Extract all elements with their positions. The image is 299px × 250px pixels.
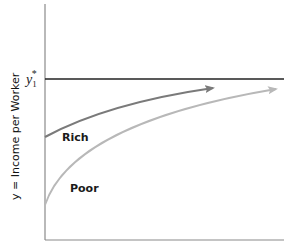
convergence-chart: y = Income per Worker y1* Rich Poor (0, 0, 299, 250)
rich-label: Rich (62, 131, 89, 144)
y-tick-label: y1* (24, 68, 37, 89)
y-axis-label: y = Income per Worker (9, 72, 22, 200)
poor-label: Poor (70, 182, 99, 195)
